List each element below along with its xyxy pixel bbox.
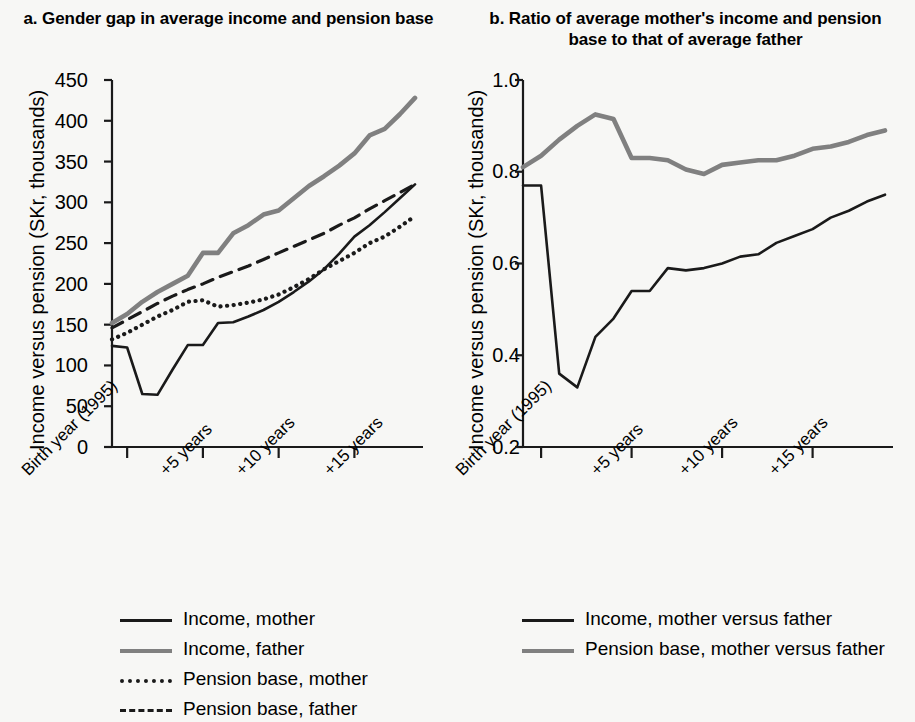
legend-label: Pension base, father <box>183 698 357 720</box>
legend-item-income-father: Income, father <box>118 634 368 664</box>
legend-item-income-mother-vs-father: Income, mother versus father <box>520 604 885 634</box>
legend-key-dotted-icon <box>118 670 174 688</box>
panel-b-legend: Income, mother versus father Pension bas… <box>520 604 885 664</box>
legend-item-pension-base-father: Pension base, father <box>118 694 368 722</box>
legend-label: Income, father <box>183 638 304 660</box>
legend-key-solid-black-icon <box>520 610 576 628</box>
panel-a-legend: Income, mother Income, father Pension ba… <box>118 604 368 722</box>
legend-key-solid-grey-icon <box>520 640 576 658</box>
legend-label: Pension base, mother <box>183 668 368 690</box>
legend-item-pension-base-mother: Pension base, mother <box>118 664 368 694</box>
panel-a: a. Gender gap in average income and pens… <box>0 0 457 705</box>
legend-item-pension-base-mother-vs-father: Pension base, mother versus father <box>520 634 885 664</box>
panel-b: b. Ratio of average mother's income and … <box>457 0 914 705</box>
legend-key-solid-grey-icon <box>118 640 174 658</box>
legend-key-dashed-icon <box>118 700 174 718</box>
legend-label: Pension base, mother versus father <box>585 638 885 660</box>
legend-label: Income, mother versus father <box>585 608 832 630</box>
legend-key-solid-black-icon <box>118 610 174 628</box>
legend-label: Income, mother <box>183 608 315 630</box>
panel-a-plot <box>0 0 457 470</box>
legend-item-income-mother: Income, mother <box>118 604 368 634</box>
